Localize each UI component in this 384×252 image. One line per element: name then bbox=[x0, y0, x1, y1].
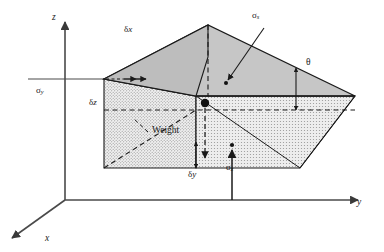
x-axis-label: x bbox=[45, 234, 49, 244]
delta-y-label: δy bbox=[188, 170, 196, 179]
delta-x-label: δx bbox=[124, 25, 132, 34]
y-axis-label: y bbox=[357, 198, 361, 208]
delta-z-var: z bbox=[93, 97, 97, 107]
sigma-y-label: σy bbox=[36, 86, 44, 96]
delta-z-label: δz bbox=[89, 98, 97, 107]
sigma-z-subscript: z bbox=[231, 165, 234, 172]
x-axis-line bbox=[12, 200, 65, 238]
sigma-s-label: σs bbox=[252, 11, 259, 21]
sigma-s-subscript: s bbox=[257, 13, 260, 20]
delta-x-var: x bbox=[128, 24, 132, 34]
z-axis-label: z bbox=[52, 13, 56, 23]
wedge-bottom-face bbox=[196, 96, 355, 168]
weight-label: Weight bbox=[152, 126, 179, 136]
theta-label: θ bbox=[306, 58, 311, 68]
sigma-z-dot bbox=[230, 143, 234, 147]
sigma-y-subscript: y bbox=[41, 88, 44, 95]
wedge-diagram-figure: z y x δx δz δy σy σz σs θ Weight bbox=[0, 0, 384, 252]
bottom-stippled-panel bbox=[196, 96, 355, 168]
sigma-s-point bbox=[224, 81, 228, 85]
centroid-dot bbox=[201, 99, 209, 107]
delta-y-var: y bbox=[192, 169, 196, 179]
diagram-canvas bbox=[0, 0, 384, 252]
sigma-z-label: σz bbox=[226, 163, 233, 173]
